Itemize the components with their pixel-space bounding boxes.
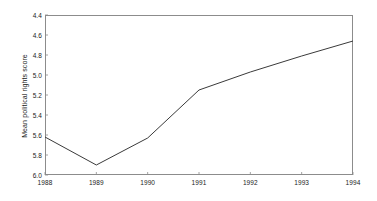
x-tick-label: 1988 (25, 179, 65, 187)
x-tick-label: 1989 (76, 179, 116, 187)
y-tick-label: 4.6 (8, 32, 42, 39)
y-tick-label: 5.8 (8, 152, 42, 159)
y-tick-label: 5.6 (8, 132, 42, 139)
x-tick-label: 1991 (179, 179, 219, 187)
line-chart: Mean political rights score 4.44.64.85.0… (0, 0, 377, 201)
y-tick-label: 6.0 (8, 172, 42, 179)
y-axis-tick-labels: 4.44.64.85.05.25.45.65.86.0 (0, 0, 42, 201)
y-tick-label: 5.4 (8, 112, 42, 119)
y-tick-label: 5.0 (8, 72, 42, 79)
x-axis-tick-labels: 1988198919901991199219931994 (0, 179, 377, 191)
y-tick-label: 5.2 (8, 92, 42, 99)
x-tick-label: 1993 (282, 179, 322, 187)
x-tick-label: 1994 (333, 179, 373, 187)
y-tick-label: 4.4 (8, 12, 42, 19)
x-tick-label: 1992 (230, 179, 270, 187)
x-tick-label: 1990 (128, 179, 168, 187)
y-tick-label: 4.8 (8, 52, 42, 59)
plot-area (45, 15, 353, 175)
